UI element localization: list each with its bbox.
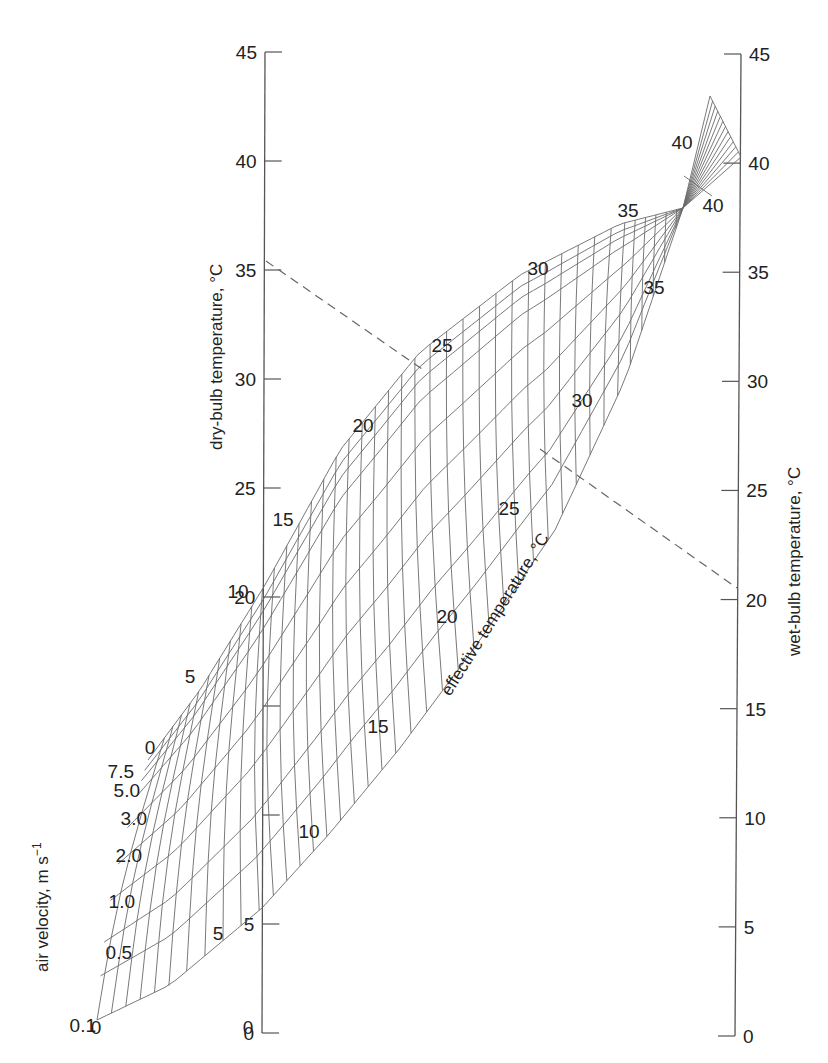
wet-bulb-axis-title: wet-bulb temperature, °C	[785, 467, 804, 657]
wet-bulb-tick-label: 30	[747, 371, 768, 392]
wet-bulb-axis: 051015202530354045	[718, 44, 770, 1047]
effective-temperature-nomogram: 05202530354045 051015202530354045 051015…	[0, 0, 828, 1063]
effective-temperature-label: 10	[227, 581, 248, 602]
air-velocity-label: 7.5	[108, 761, 134, 782]
effective-temperature-curve	[544, 262, 549, 540]
dry-bulb-tick-label: 40	[236, 151, 257, 172]
wet-bulb-tick-label: 0	[743, 1026, 754, 1047]
air-velocity-curve-fan	[683, 101, 713, 208]
air-velocity-curve	[118, 208, 683, 864]
effective-temperature-label: 10	[298, 821, 319, 842]
effective-temperature-curve	[280, 546, 287, 881]
effective-temperature-curve	[495, 294, 504, 605]
air-velocity-curve	[104, 208, 683, 942]
effective-temperature-curve	[512, 281, 519, 583]
effective-temperature-label: 15	[367, 716, 388, 737]
effective-temperature-label: 0	[243, 1017, 254, 1038]
air-velocity-curve-fan	[683, 106, 715, 208]
air-velocity-label: 2.0	[116, 845, 142, 866]
effective-temperature-curve	[293, 524, 300, 866]
effective-temperature-curve	[528, 271, 534, 562]
nomogram-grid	[97, 96, 741, 1020]
effective-temperature-label: 20	[436, 606, 457, 627]
air-velocity-curve	[111, 208, 684, 900]
effective-temperature-label: 35	[617, 200, 638, 221]
air-velocity-curve	[101, 208, 683, 976]
effective-temperature-curve	[401, 374, 411, 733]
air-velocity-label: 5.0	[114, 780, 140, 801]
wet-bulb-tick-label: 45	[749, 44, 770, 65]
air-velocity-curve-fan	[683, 111, 718, 208]
dry-bulb-tick-label: 5	[244, 914, 255, 935]
wet-bulb-tick-label: 10	[744, 808, 765, 829]
wet-bulb-tick-label: 20	[746, 590, 767, 611]
effective-temperature-label: 5	[213, 923, 224, 944]
effective-temperature-label: 40	[671, 132, 692, 153]
wet-bulb-tick-label: 5	[744, 917, 755, 938]
air-velocity-axis-title: air velocity, m s−1	[30, 842, 52, 972]
curve-labels: 0510152025303540050101520253035400.10.51…	[70, 132, 724, 1038]
effective-temperature-curve	[205, 641, 231, 956]
effective-temperature-label: 20	[352, 415, 373, 436]
effective-temperature-label: 40	[702, 195, 723, 216]
effective-temperature-curve	[575, 245, 579, 484]
air-velocity-curve	[97, 208, 683, 1020]
dry-bulb-tick-label: 30	[235, 369, 256, 390]
wet-bulb-tick-label: 15	[745, 699, 766, 720]
effective-temperature-label: 25	[498, 498, 519, 519]
effective-temperature-curve	[590, 237, 595, 455]
effective-temperature-label: 25	[431, 335, 452, 356]
effective-temperature-label: 5	[185, 666, 196, 687]
effective-temperature-label: 35	[643, 277, 664, 298]
dry-bulb-tick-label: 45	[236, 42, 257, 63]
effective-temperature-curve	[387, 391, 396, 754]
effective-temperature-label: 30	[527, 258, 548, 279]
air-velocity-label: 0.1	[70, 1015, 96, 1036]
air-velocity-title-text: air velocity, m s	[33, 856, 52, 972]
dry-bulb-tick-label: 35	[235, 260, 256, 281]
effective-temperature-label: 0	[145, 737, 156, 758]
effective-temperature-curve	[333, 457, 341, 820]
wet-bulb-tick-label: 25	[746, 480, 767, 501]
dry-bulb-tick-label: 25	[235, 478, 256, 499]
wet-bulb-tick-label: 40	[748, 153, 769, 174]
effective-temperature-curve	[346, 439, 355, 803]
air-velocity-label: 0.5	[106, 942, 132, 963]
dry-bulb-axis-title: dry-bulb temperature, °C	[207, 264, 226, 450]
effective-temperature-curve	[479, 306, 489, 626]
effective-temperature-curve	[255, 589, 263, 910]
air-velocity-title-sup: −1	[30, 842, 44, 856]
effective-temperature-label: 30	[571, 390, 592, 411]
wet-bulb-tick-label: 35	[748, 262, 769, 283]
air-velocity-label: 3.0	[121, 808, 147, 829]
effective-temperature-curve	[560, 254, 563, 514]
example-dashed-line	[266, 261, 737, 588]
air-velocity-label: 1.0	[109, 891, 135, 912]
effective-temperature-label: 15	[272, 509, 293, 530]
